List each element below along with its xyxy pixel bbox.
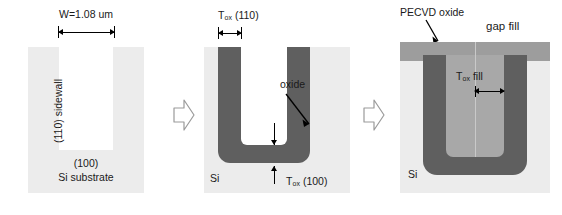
width-dimension-label: W=1.08 um	[36, 8, 136, 20]
bottom-plane-label: (100)	[46, 157, 126, 169]
substrate-label: Si	[210, 172, 219, 184]
tox-bottom-label: Tox (100)	[286, 175, 327, 188]
gap-fill-seam	[475, 42, 476, 157]
step-arrow-2	[362, 98, 386, 132]
panel-pecvd-gap-fill: PECVD oxide gap fill Tox fill Si	[388, 0, 562, 215]
trench-void	[59, 47, 113, 150]
tox-fill-label: Tox fill	[456, 70, 483, 83]
tox-bottom-suffix: (100)	[300, 175, 327, 187]
sidewall-orientation-label: (110) sidewall	[52, 79, 64, 143]
tox-fill-suffix: fill	[470, 70, 483, 82]
substrate-label: Si	[408, 168, 417, 180]
tox-bottom-subscript: ox	[292, 180, 300, 187]
tox-fill-subscript: ox	[462, 75, 470, 82]
panel-etched-trench: W=1.08 um (110) sidewall (100) Si substr…	[0, 0, 172, 215]
substrate-label: Si substrate	[36, 171, 136, 183]
panel-thermal-oxide-liner: Tox (110) oxide Tox (100) Si	[190, 0, 362, 215]
